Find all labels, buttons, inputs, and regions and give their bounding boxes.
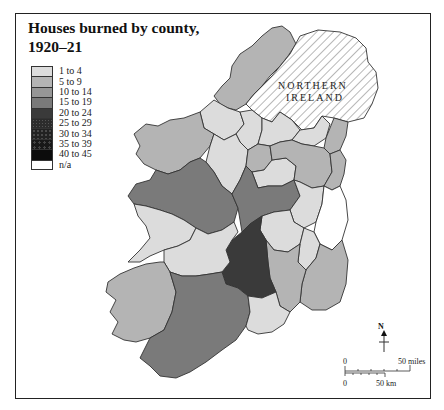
ireland-map: NORTHERN IRELAND	[0, 0, 444, 410]
scale-miles-zero: 0	[343, 357, 347, 366]
ni-label-1: NORTHERN	[278, 80, 348, 91]
compass-north-label: N	[378, 322, 384, 331]
scale-km-label: 50 km	[376, 379, 396, 388]
ni-label-2: IRELAND	[286, 92, 344, 103]
scale-miles-label: 50 miles	[398, 357, 425, 366]
scale-km-zero: 0	[343, 379, 347, 388]
compass-icon	[379, 330, 389, 352]
scale-bar	[345, 365, 410, 377]
